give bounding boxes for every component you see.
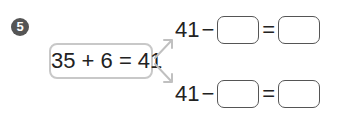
- minus-sign: −: [201, 17, 214, 43]
- subtraction-row-1: 41 − =: [175, 15, 321, 45]
- minuend: 41: [175, 81, 199, 107]
- result-input-box[interactable]: [278, 16, 320, 44]
- result-input-box[interactable]: [278, 80, 320, 108]
- subtrahend-input-box[interactable]: [217, 80, 259, 108]
- equals-sign: =: [262, 17, 275, 43]
- subtrahend-input-box[interactable]: [217, 16, 259, 44]
- minus-sign: −: [201, 81, 214, 107]
- minuend: 41: [175, 17, 199, 43]
- subtraction-row-2: 41 − =: [175, 79, 321, 109]
- arrow-up-icon: [155, 40, 172, 58]
- arrow-down-icon: [155, 64, 172, 82]
- equals-sign: =: [262, 81, 275, 107]
